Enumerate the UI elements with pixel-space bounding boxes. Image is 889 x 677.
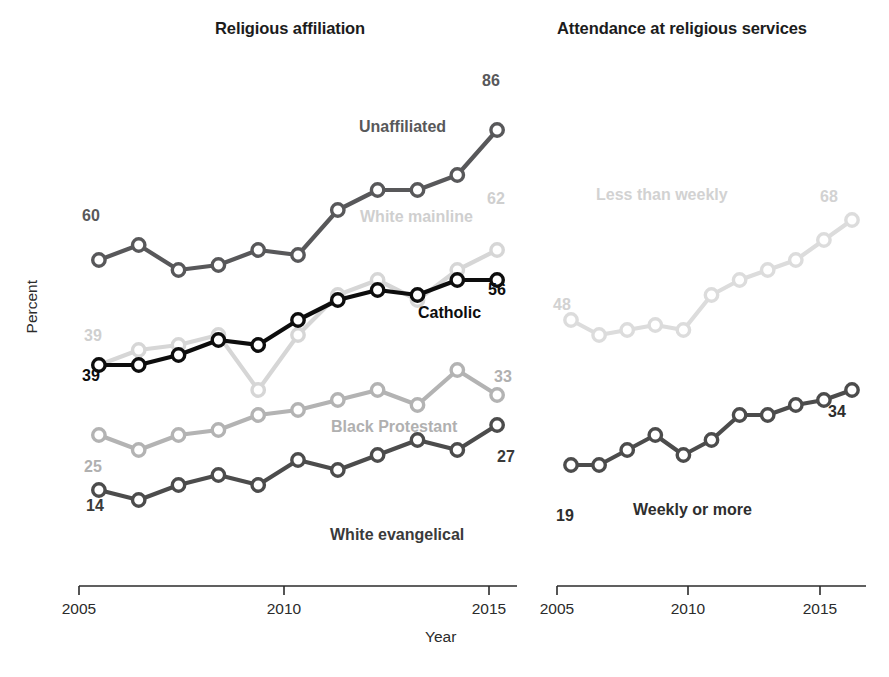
data-point (593, 329, 605, 341)
data-point (133, 494, 145, 506)
data-point (133, 344, 145, 356)
data-point (677, 324, 689, 336)
end-value-less-than-weekly: 68 (820, 188, 838, 206)
plot-canvas (0, 0, 889, 677)
end-value-unaffiliated: 86 (482, 72, 500, 90)
data-point (252, 479, 264, 491)
data-point (593, 459, 605, 471)
data-point (212, 334, 224, 346)
data-point (172, 429, 184, 441)
series-label-unaffiliated: Unaffiliated (359, 118, 446, 136)
data-point (491, 389, 503, 401)
data-point (762, 264, 774, 276)
x-tick-right-2010: 2010 (653, 600, 723, 618)
x-axis-right (557, 586, 866, 595)
series-unaffiliated (93, 124, 504, 276)
data-point (292, 404, 304, 416)
data-point (172, 349, 184, 361)
data-point (172, 479, 184, 491)
data-point (371, 284, 383, 296)
start-value-white-evangelical: 14 (86, 497, 104, 515)
data-point (292, 454, 304, 466)
data-point (621, 324, 633, 336)
x-tick-right-2005: 2005 (522, 600, 592, 618)
data-point (733, 409, 745, 421)
data-point (565, 314, 577, 326)
data-point (332, 394, 344, 406)
series-label-white-evangelical: White evangelical (330, 526, 464, 544)
data-point (212, 424, 224, 436)
end-value-white-evangelical: 27 (497, 448, 515, 466)
series-line (571, 220, 852, 335)
x-tick-left-2015: 2015 (454, 600, 524, 618)
data-point (846, 384, 858, 396)
end-value-weekly-or-more: 34 (828, 403, 846, 421)
data-point (212, 259, 224, 271)
data-point (371, 449, 383, 461)
data-point (762, 409, 774, 421)
x-axis-left (79, 586, 517, 595)
data-point (133, 239, 145, 251)
data-point (451, 444, 463, 456)
data-point (818, 234, 830, 246)
data-point (292, 329, 304, 341)
start-value-black-protestant: 25 (84, 458, 102, 476)
data-point (451, 274, 463, 286)
series-label-less-than-weekly: Less than weekly (596, 186, 728, 204)
data-point (332, 204, 344, 216)
data-point (133, 359, 145, 371)
data-point (649, 429, 661, 441)
series-weekly-or-more (565, 384, 858, 471)
data-point (371, 184, 383, 196)
data-point (252, 409, 264, 421)
data-point (93, 429, 105, 441)
series-black-protestant (93, 364, 504, 456)
data-point (133, 444, 145, 456)
start-value-white-mainline: 39 (84, 327, 102, 345)
data-point (451, 169, 463, 181)
data-point (411, 289, 423, 301)
data-point (565, 459, 577, 471)
data-point (790, 254, 802, 266)
data-point (705, 434, 717, 446)
data-point (790, 399, 802, 411)
data-point (621, 444, 633, 456)
data-point (252, 339, 264, 351)
data-point (332, 464, 344, 476)
data-point (491, 419, 503, 431)
data-point (292, 314, 304, 326)
data-point (451, 364, 463, 376)
series-label-weekly-or-more: Weekly or more (633, 501, 752, 519)
series-label-catholic: Catholic (418, 304, 481, 322)
start-value-weekly-or-more: 19 (556, 507, 574, 525)
start-value-catholic: 39 (82, 367, 100, 385)
data-point (733, 274, 745, 286)
data-point (411, 399, 423, 411)
end-value-black-protestant: 33 (494, 368, 512, 386)
x-tick-left-2010: 2010 (249, 600, 319, 618)
data-point (172, 264, 184, 276)
data-point (93, 484, 105, 496)
data-point (93, 254, 105, 266)
start-value-unaffiliated: 60 (82, 207, 100, 225)
series-label-black-protestant: Black Protestant (331, 418, 457, 436)
end-value-white-mainline: 62 (487, 190, 505, 208)
chart-figure: Religious affiliation Attendance at reli… (0, 0, 889, 677)
start-value-less-than-weekly: 48 (553, 296, 571, 314)
data-point (252, 244, 264, 256)
data-point (212, 469, 224, 481)
data-point (491, 244, 503, 256)
data-point (649, 319, 661, 331)
x-tick-left-2005: 2005 (44, 600, 114, 618)
data-point (491, 124, 503, 136)
x-tick-right-2015: 2015 (785, 600, 855, 618)
data-point (252, 384, 264, 396)
data-point (371, 384, 383, 396)
series-label-white-mainline: White mainline (360, 208, 473, 226)
data-point (705, 289, 717, 301)
data-point (332, 294, 344, 306)
series-catholic (93, 274, 504, 371)
series-line (571, 390, 852, 465)
end-value-catholic: 56 (488, 281, 506, 299)
data-point (292, 249, 304, 261)
